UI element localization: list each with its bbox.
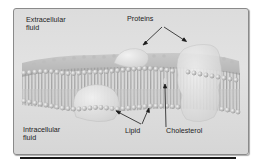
label-cholesterol: Cholesterol	[166, 127, 202, 135]
membrane-protein-large-right	[177, 45, 222, 122]
bottom-rule	[20, 157, 236, 159]
diagram-frame: Extracellular fluid Proteins Intracellul…	[13, 8, 249, 155]
label-proteins: Proteins	[127, 15, 153, 23]
membrane-protein-small-top	[114, 49, 148, 68]
label-intracellular-fluid: Intracellular fluid	[23, 126, 60, 143]
membrane-protein-bottom-left	[73, 85, 119, 122]
label-extracellular-fluid: Extracellular fluid	[26, 16, 66, 33]
label-lipid: Lipid	[125, 127, 140, 135]
